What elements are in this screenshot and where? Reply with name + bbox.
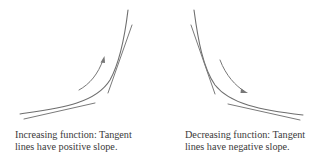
increasing-tangent-line-upper <box>108 25 132 93</box>
increasing-curve <box>20 10 128 114</box>
decreasing-panel <box>191 10 303 120</box>
decreasing-tangent-line-lower <box>228 104 300 120</box>
increasing-caption-line-2: lines have positive slope. <box>15 141 132 153</box>
increasing-panel <box>20 10 132 119</box>
decreasing-caption-line-1: Decreasing function: Tangent <box>185 129 305 141</box>
increasing-caption: Increasing function: Tangent lines have … <box>15 129 132 152</box>
decreasing-curve <box>194 10 303 115</box>
decreasing-direction-arrow <box>220 60 244 91</box>
increasing-caption-line-1: Increasing function: Tangent <box>15 129 132 141</box>
decreasing-caption-line-2: lines have negative slope. <box>185 141 305 153</box>
increasing-arrowhead-icon <box>101 56 106 63</box>
decreasing-arrowhead-icon <box>241 89 249 94</box>
increasing-tangent-line-lower <box>24 103 95 119</box>
decreasing-caption: Decreasing function: Tangent lines have … <box>185 129 305 152</box>
decreasing-tangent-line-upper <box>191 25 215 94</box>
increasing-direction-arrow <box>79 60 103 90</box>
